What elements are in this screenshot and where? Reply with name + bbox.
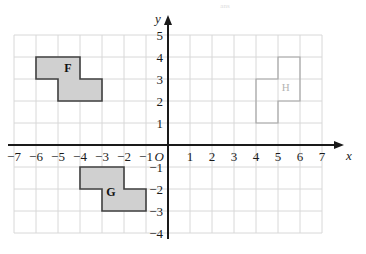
- y-axis-label: y: [153, 11, 161, 26]
- shape-label-f: F: [64, 61, 71, 75]
- watermark-text: ans: [220, 2, 230, 10]
- y-axis-arrow-icon: [164, 15, 172, 25]
- x-tick-label: −4: [73, 149, 87, 164]
- y-tick-label: 3: [157, 72, 164, 87]
- shape-label-h: H: [282, 81, 290, 93]
- x-tick-label: 5: [275, 149, 282, 164]
- x-tick-label: 7: [319, 149, 326, 164]
- x-tick-label: −5: [51, 149, 65, 164]
- x-tick-label: 4: [253, 149, 260, 164]
- y-tick-label: 2: [157, 94, 164, 109]
- coordinate-grid-figure: FGH −7−6−5−4−3−2−1123456754321−1−2−3−4Ox…: [0, 0, 366, 254]
- x-tick-label: −3: [95, 149, 109, 164]
- x-tick-label: −7: [7, 149, 21, 164]
- y-tick-label: −2: [149, 182, 163, 197]
- y-tick-label: 5: [157, 28, 164, 43]
- origin-label: O: [155, 149, 165, 164]
- x-tick-label: 2: [209, 149, 216, 164]
- x-tick-label: −6: [29, 149, 43, 164]
- y-tick-label: −4: [149, 226, 163, 241]
- x-tick-label: 3: [231, 149, 238, 164]
- y-tick-label: 4: [157, 50, 164, 65]
- shape-label-g: G: [106, 185, 115, 199]
- y-tick-label: 1: [157, 116, 164, 131]
- coordinate-plot: FGH −7−6−5−4−3−2−1123456754321−1−2−3−4Ox…: [0, 0, 366, 254]
- x-axis-label: x: [345, 148, 352, 163]
- watermark-layer: ans: [220, 2, 230, 10]
- y-tick-label: −3: [149, 204, 163, 219]
- x-tick-label: −2: [117, 149, 131, 164]
- x-tick-label: 6: [297, 149, 304, 164]
- x-axis-arrow-icon: [334, 141, 344, 149]
- x-tick-label: 1: [187, 149, 194, 164]
